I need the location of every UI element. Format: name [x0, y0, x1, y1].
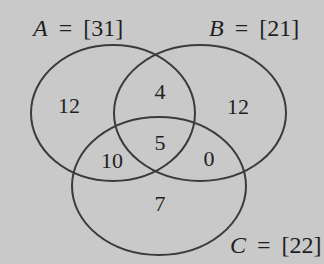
region-a-and-c-only: 10 [101, 148, 123, 173]
set-c-total: [22] [282, 232, 322, 258]
set-b-name: B [209, 15, 224, 41]
set-b-ellipse [114, 45, 286, 181]
set-b-equals: = [235, 15, 249, 41]
region-a-only: 12 [58, 93, 80, 118]
set-c-name: C [230, 232, 247, 258]
set-a-label: A = [31] [31, 15, 123, 41]
set-b-label: B = [21] [209, 15, 299, 41]
set-c-equals: = [257, 232, 271, 258]
region-a-b-c: 5 [155, 130, 166, 155]
region-b-only: 12 [227, 94, 249, 119]
region-c-only: 7 [155, 191, 166, 216]
region-b-and-c-only: 0 [204, 146, 215, 171]
set-a-equals: = [59, 15, 73, 41]
region-a-and-b-only: 4 [155, 79, 166, 104]
set-c-label: C = [22] [230, 232, 322, 258]
venn-svg: A = [31] B = [21] C = [22] 12 4 12 10 5 … [0, 0, 324, 264]
set-a-total: [31] [83, 15, 123, 41]
venn-diagram: A = [31] B = [21] C = [22] 12 4 12 10 5 … [0, 0, 324, 264]
set-b-total: [21] [259, 15, 299, 41]
set-a-name: A [31, 15, 48, 41]
